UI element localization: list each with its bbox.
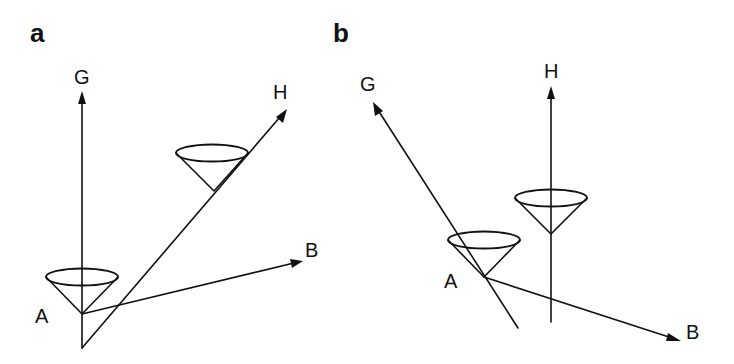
vector-g-line: [378, 110, 518, 328]
panel-b: b G H B: [333, 18, 699, 343]
arrowhead-icon: [290, 259, 303, 268]
vector-b-label: B: [305, 239, 318, 261]
vector-b-label: B: [686, 321, 699, 343]
panel-a: a G H B: [30, 18, 318, 348]
cone-icon: [448, 232, 520, 278]
vector-b-line: [82, 263, 294, 314]
vector-h-label: H: [544, 60, 558, 82]
cone-rim: [448, 232, 520, 249]
vector-b-b: B: [484, 277, 699, 343]
vector-g-label: G: [360, 73, 376, 95]
vector-b-line: [484, 277, 672, 338]
arrowhead-icon: [666, 333, 681, 341]
point-a-label: A: [444, 270, 458, 292]
cone-rim: [176, 145, 248, 162]
arrowhead-icon: [547, 86, 555, 99]
point-a-label: A: [35, 305, 49, 327]
vector-h-b: H: [544, 60, 558, 322]
vector-h-line: [82, 117, 280, 348]
arrowhead-icon: [373, 102, 383, 116]
vector-g-a: G: [74, 66, 90, 348]
vector-g-b: G: [360, 73, 518, 328]
diagram-figure: a G H B: [0, 0, 734, 364]
vector-h-label: H: [273, 81, 287, 103]
diagram-canvas: a G H B: [0, 0, 734, 364]
vector-g-label: G: [74, 66, 90, 88]
vector-h-a: H: [82, 81, 287, 348]
arrowhead-icon: [78, 91, 86, 104]
panel-label-a: a: [30, 18, 45, 48]
panel-label-b: b: [333, 18, 349, 48]
